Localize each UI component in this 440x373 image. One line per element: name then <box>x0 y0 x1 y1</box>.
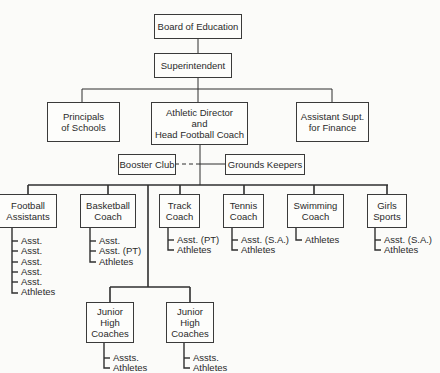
label: of Schools <box>61 122 105 133</box>
principals-box: Principals of Schools <box>47 102 120 142</box>
label: Superintendent <box>161 60 225 71</box>
girls-sports-staff-list: Asst. (S.A.) Athletes <box>384 235 432 256</box>
swimming-staff-list: Athletes <box>305 235 339 245</box>
board-of-education-box: Board of Education <box>154 14 242 39</box>
label: Athletic Director <box>166 107 233 118</box>
label: Coach <box>94 211 121 222</box>
label: Coaches <box>91 328 129 339</box>
track-staff-list: Asst. (PT) Athletes <box>177 235 219 256</box>
junior-high-1-staff-list: Assts. Athletes <box>113 353 147 373</box>
label: Football <box>11 200 45 211</box>
label: Head Football Coach <box>155 129 244 140</box>
label: Swimming <box>294 200 338 211</box>
label: Booster Club <box>120 159 175 170</box>
label: Junior <box>177 306 203 317</box>
tennis-box: Tennis Coach <box>223 194 264 228</box>
staff-item: Athletes <box>384 245 432 255</box>
girls-sports-box: Girls Sports <box>367 194 407 228</box>
staff-item: Athletes <box>21 287 55 297</box>
grounds-keepers-box: Grounds Keepers <box>225 154 305 175</box>
label: Coach <box>230 211 257 222</box>
staff-item: Athletes <box>305 235 339 245</box>
finance-box: Assistant Supt. for Finance <box>296 102 369 142</box>
booster-club-box: Booster Club <box>118 154 176 175</box>
junior-high-coaches-box-2: Junior High Coaches <box>166 302 214 343</box>
tennis-staff-list: Asst. (S.A.) Athletes <box>241 235 289 256</box>
superintendent-box: Superintendent <box>154 53 232 78</box>
staff-item: Athletes <box>241 245 289 255</box>
label: Assistant Supt. <box>301 111 364 122</box>
track-box: Track Coach <box>159 194 200 228</box>
label: Board of Education <box>158 21 239 32</box>
label: Principals <box>63 111 104 122</box>
label: Coach <box>166 211 193 222</box>
football-staff-list: Asst. Asst. Asst. Asst. Asst. Athletes <box>21 236 55 298</box>
label: High <box>100 317 120 328</box>
label: Coaches <box>171 328 209 339</box>
label: Assistants <box>6 211 49 222</box>
label: Tennis <box>230 200 257 211</box>
label: Junior <box>97 306 123 317</box>
football-box: Football Assistants <box>0 194 57 228</box>
label: Track <box>168 200 191 211</box>
staff-item: Athletes <box>193 363 227 373</box>
athletic-director-box: Athletic Director and Head Football Coac… <box>151 102 248 145</box>
basketball-staff-list: Asst. Asst. (PT) Athletes <box>99 236 141 267</box>
label: Sports <box>373 211 400 222</box>
label: Girls <box>377 200 397 211</box>
label: for Finance <box>309 122 357 133</box>
junior-high-2-staff-list: Assts. Athletes <box>193 353 227 373</box>
label: Grounds Keepers <box>228 159 302 170</box>
org-chart: Board of Education Superintendent Princi… <box>0 0 440 373</box>
label: and <box>192 118 208 129</box>
staff-item: Athletes <box>177 245 219 255</box>
basketball-box: Basketball Coach <box>80 194 136 228</box>
label: Coach <box>302 211 329 222</box>
label: High <box>180 317 200 328</box>
staff-item: Athletes <box>99 257 141 267</box>
junior-high-coaches-box-1: Junior High Coaches <box>86 302 134 343</box>
swimming-box: Swimming Coach <box>287 194 344 228</box>
label: Basketball <box>86 200 130 211</box>
staff-item: Athletes <box>113 363 147 373</box>
